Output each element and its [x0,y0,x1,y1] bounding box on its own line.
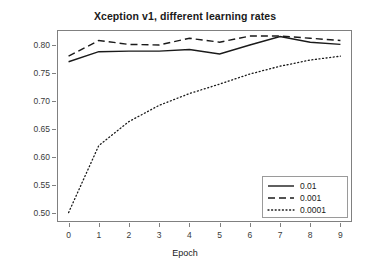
chart-screenshot: Xception v1, different learning rates 0.… [0,0,370,270]
y-tick-mark [52,73,56,74]
x-tick-mark [280,223,281,227]
y-tick-mark [52,45,56,46]
y-tick-mark [52,129,56,130]
x-tick-label: 9 [338,230,343,240]
legend-item-0.001: 0.001 [267,192,343,204]
x-tick-mark [69,223,70,227]
x-tick-mark [99,223,100,227]
x-tick-mark [310,223,311,227]
y-tick-label: 0.65 [33,124,50,134]
legend-item-0.0001: 0.0001 [267,204,343,216]
x-tick-mark [220,223,221,227]
y-tick-label: 0.55 [33,180,50,190]
x-tick-label: 8 [308,230,313,240]
legend: 0.01 0.001 0.0001 [262,176,348,218]
x-tick-label: 0 [66,230,71,240]
x-tick-label: 6 [247,230,252,240]
x-tick-label: 7 [278,230,283,240]
y-tick-label: 0.60 [33,152,50,162]
x-tick-mark [189,223,190,227]
x-tick-label: 3 [157,230,162,240]
legend-label-0.0001: 0.0001 [300,205,326,215]
x-axis-label: Epoch [0,248,370,258]
legend-swatch-solid-icon [267,181,295,191]
legend-label-0.01: 0.01 [300,181,317,191]
x-tick-label: 1 [96,230,101,240]
x-tick-mark [340,223,341,227]
x-tick-label: 2 [127,230,132,240]
legend-item-0.01: 0.01 [267,180,343,192]
legend-swatch-dashed-icon [267,193,295,203]
y-tick-mark [52,101,56,102]
y-tick-mark [52,185,56,186]
y-tick-mark [52,213,56,214]
y-tick-label: 0.80 [33,40,50,50]
y-tick-mark [52,157,56,158]
x-tick-mark [250,223,251,227]
legend-label-0.001: 0.001 [300,193,321,203]
x-tick-mark [159,223,160,227]
x-tick-label: 5 [217,230,222,240]
axis-ticks-layer: 0.500.550.600.650.700.750.800123456789 [0,0,370,270]
legend-swatch-dotted-icon [267,205,295,215]
x-tick-mark [129,223,130,227]
y-tick-label: 0.75 [33,68,50,78]
x-tick-label: 4 [187,230,192,240]
y-tick-label: 0.50 [33,208,50,218]
y-tick-label: 0.70 [33,96,50,106]
